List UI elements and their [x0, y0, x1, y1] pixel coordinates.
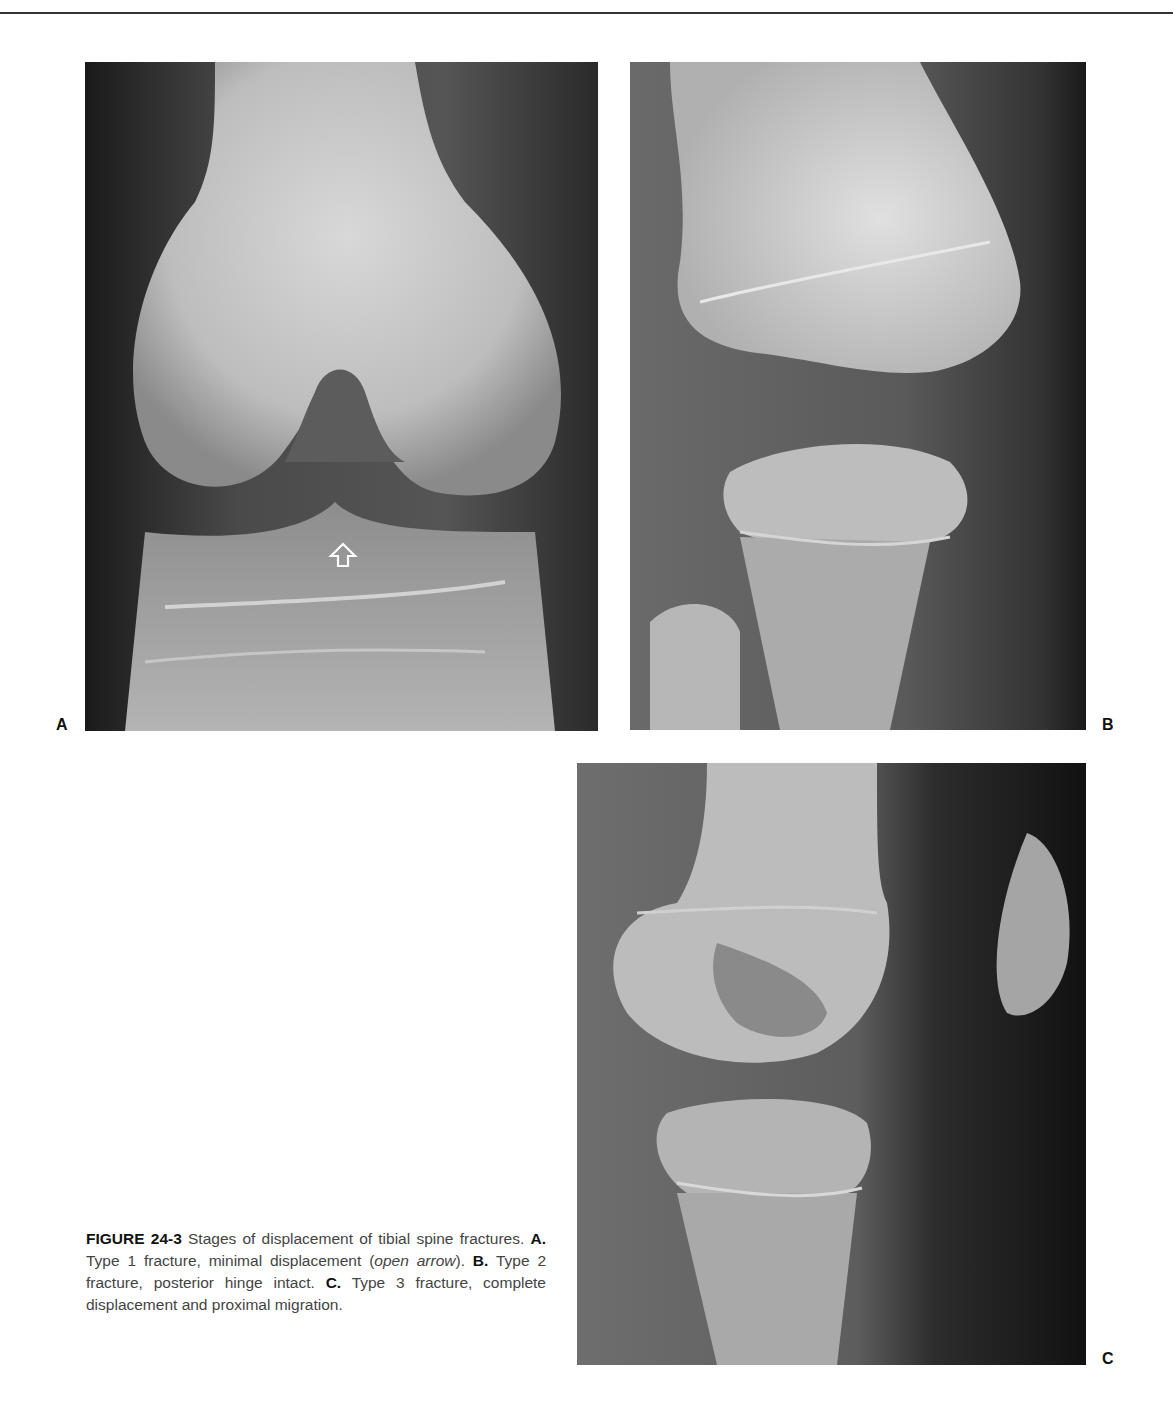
caption-a-italic: open arrow [374, 1252, 455, 1269]
xray-panel-b [630, 62, 1086, 730]
panel-label-b: B [1102, 716, 1114, 734]
caption-a-end: ). [455, 1252, 472, 1269]
caption-a-label: A. [531, 1230, 547, 1247]
caption-c-label: C. [326, 1274, 342, 1291]
caption-intro: Stages of displacement of tibial spine f… [182, 1230, 531, 1247]
caption-b-label: B. [473, 1252, 489, 1269]
figure-caption: FIGURE 24-3 Stages of displacement of ti… [86, 1228, 546, 1316]
caption-a-text: Type 1 fracture, minimal displacement ( [86, 1252, 374, 1269]
knee-lateral-xray-image-c [577, 763, 1086, 1365]
knee-ap-xray-image [85, 62, 598, 731]
knee-lateral-xray-image-b [630, 62, 1086, 730]
xray-panel-c [577, 763, 1086, 1365]
xray-panel-a [85, 62, 598, 731]
header-rule [0, 12, 1173, 14]
figure-number: FIGURE 24-3 [86, 1230, 182, 1247]
panel-label-c: C [1102, 1350, 1114, 1368]
panel-label-a: A [56, 716, 68, 734]
